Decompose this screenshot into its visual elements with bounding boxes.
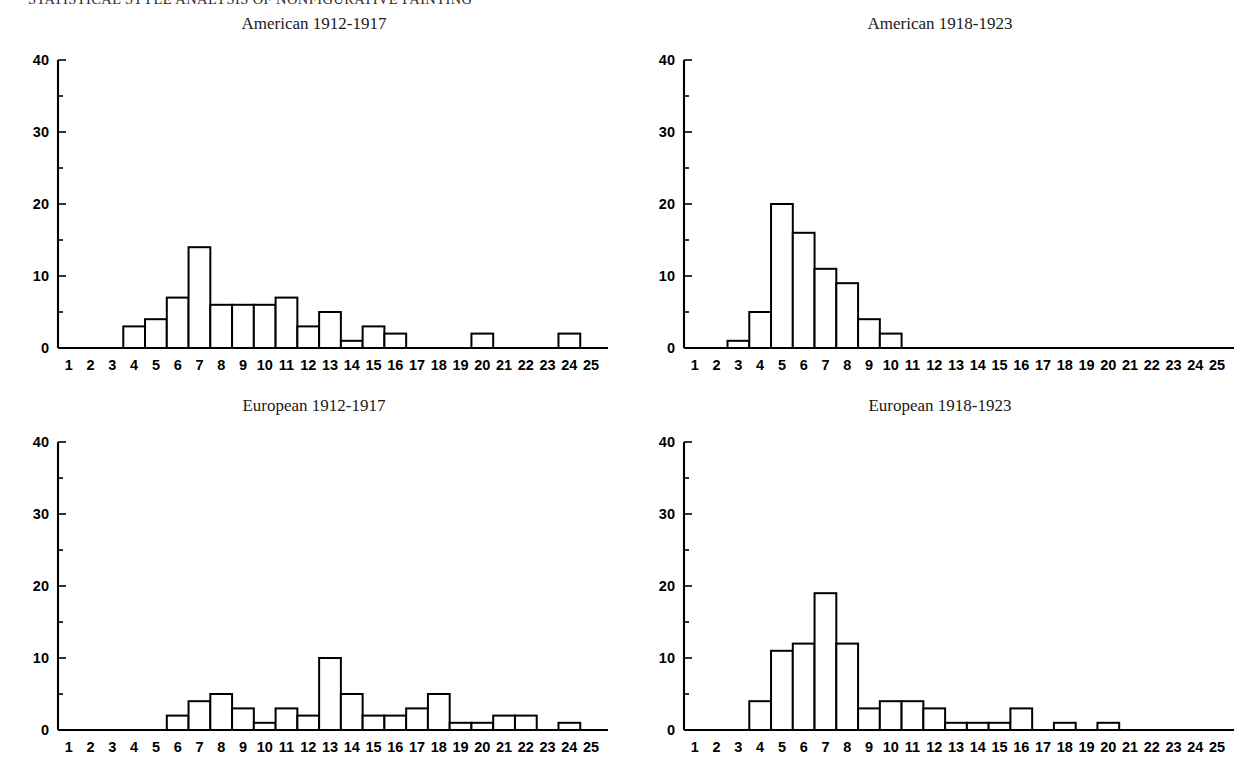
histogram-bar [1097,723,1119,730]
x-tick-label: 23 [540,739,556,755]
x-tick-label: 4 [756,739,764,755]
x-tick-label: 8 [217,357,225,373]
y-tick-label: 20 [659,196,675,212]
x-tick-label: 16 [1013,357,1029,373]
x-tick-label: 4 [130,357,138,373]
histogram-bar [167,716,189,730]
x-tick-label: 17 [1035,739,1051,755]
x-tick-label: 7 [195,739,203,755]
x-tick-label: 8 [217,739,225,755]
x-tick-label: 12 [300,739,316,755]
x-tick-label: 2 [713,739,721,755]
histogram-bar [945,723,967,730]
histogram-svg: 0102030401234567891011121314151617181920… [640,40,1240,380]
histogram-bar [793,233,815,348]
y-tick-label: 0 [41,722,49,738]
x-tick-label: 5 [152,739,160,755]
histogram-svg: 0102030401234567891011121314151617181920… [14,422,614,762]
x-tick-label: 11 [905,739,920,755]
y-tick-label: 0 [667,722,675,738]
running-header: STATISTICAL STYLE ANALYSIS OF NONFIGURAT… [28,0,668,7]
histogram-bar [923,708,945,730]
chart-plot-area: 0102030401234567891011121314151617181920… [640,40,1240,380]
histogram-bar [771,204,793,348]
figure-page: STATISTICAL STYLE ANALYSIS OF NONFIGURAT… [0,0,1255,776]
histogram-bar [384,716,406,730]
x-tick-label: 20 [474,357,490,373]
x-tick-label: 24 [1187,739,1203,755]
x-tick-label: 12 [926,739,942,755]
y-tick-label: 10 [659,650,675,666]
x-tick-label: 3 [108,357,116,373]
x-tick-label: 13 [948,739,964,755]
histogram-bar [189,247,211,348]
x-tick-label: 18 [1057,357,1073,373]
x-tick-label: 23 [1166,739,1182,755]
histogram-bar [749,312,771,348]
x-tick-label: 2 [713,357,721,373]
x-tick-label: 14 [970,739,986,755]
x-tick-label: 9 [239,357,247,373]
x-tick-label: 21 [1122,357,1138,373]
x-tick-label: 22 [518,357,534,373]
x-tick-label: 6 [800,357,808,373]
histogram-bar [515,716,537,730]
y-tick-label: 10 [33,268,49,284]
y-tick-label: 30 [659,506,675,522]
x-tick-label: 24 [561,357,577,373]
x-tick-label: 3 [108,739,116,755]
x-tick-label: 10 [257,357,273,373]
x-tick-label: 19 [452,357,468,373]
x-tick-label: 18 [1057,739,1073,755]
x-tick-label: 24 [1187,357,1203,373]
x-tick-label: 17 [1035,357,1051,373]
histogram-bar [450,723,472,730]
x-tick-label: 25 [1209,357,1225,373]
x-tick-label: 5 [778,357,786,373]
histogram-svg: 0102030401234567891011121314151617181920… [640,422,1240,762]
histogram-bar [471,334,493,348]
histogram-bar [210,305,232,348]
y-tick-label: 40 [33,52,49,68]
histogram-bar [815,269,837,348]
x-tick-label: 10 [257,739,273,755]
histogram-bar [815,593,837,730]
histogram-svg: 0102030401234567891011121314151617181920… [14,40,614,380]
x-tick-label: 8 [843,739,851,755]
x-tick-label: 13 [322,739,338,755]
histogram-bar [749,701,771,730]
x-tick-label: 25 [1209,739,1225,755]
histogram-bar [793,644,815,730]
y-tick-label: 40 [659,52,675,68]
y-tick-label: 40 [659,434,675,450]
chart-plot-area: 0102030401234567891011121314151617181920… [14,40,614,380]
chart-title: American 1912-1917 [14,14,614,34]
y-tick-label: 10 [33,650,49,666]
histogram-bar [558,334,580,348]
x-tick-label: 2 [87,357,95,373]
histogram-bar [1010,708,1032,730]
x-tick-label: 3 [734,357,742,373]
x-tick-label: 18 [431,357,447,373]
x-tick-label: 15 [365,357,381,373]
chart-title: European 1912-1917 [14,396,614,416]
histogram-bar [319,658,341,730]
x-tick-label: 1 [691,739,699,755]
histogram-bar [123,326,145,348]
histogram-bar [858,708,880,730]
x-tick-label: 7 [821,357,829,373]
chart-panel-european-1918-1923: European 1918-1923 010203040123456789101… [640,396,1240,764]
histogram-bar [902,701,924,730]
x-tick-label: 6 [174,739,182,755]
y-tick-label: 10 [659,268,675,284]
histogram-bar [880,334,902,348]
x-tick-label: 16 [387,739,403,755]
y-tick-label: 30 [659,124,675,140]
x-tick-label: 7 [195,357,203,373]
x-tick-label: 25 [583,357,599,373]
histogram-bar [297,326,319,348]
x-tick-label: 3 [734,739,742,755]
x-tick-label: 9 [865,739,873,755]
y-tick-label: 20 [33,196,49,212]
x-tick-label: 24 [561,739,577,755]
